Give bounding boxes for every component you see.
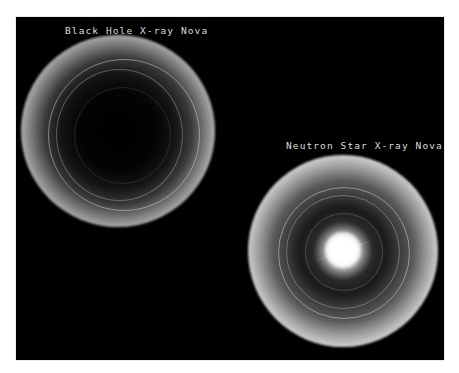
neutron-star-label: Neutron Star X-ray Nova bbox=[286, 140, 443, 151]
black-hole-ring bbox=[74, 87, 171, 184]
black-hole-label: Black Hole X-ray Nova bbox=[65, 25, 208, 36]
illustration-frame: Black Hole X-ray Nova Neutron Star X-ray… bbox=[16, 17, 444, 360]
